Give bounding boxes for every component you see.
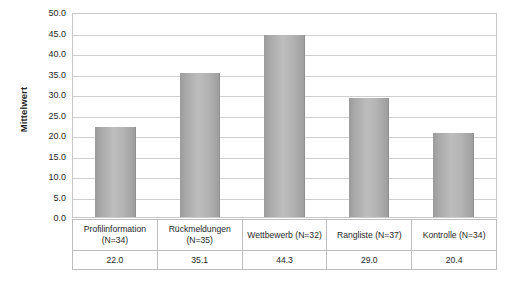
table-cell-value: 22.0 xyxy=(73,251,158,270)
table-cell-value: 44.3 xyxy=(242,251,327,270)
bar-chart-figure: Mittelwert 0.05.010.015.020.025.030.035.… xyxy=(0,0,520,287)
y-axis-tick-label: 20.0 xyxy=(48,131,66,141)
table-row-categories: Profilinformation (N=34)Rückmeldungen (N… xyxy=(73,220,497,251)
table-cell-value: 35.1 xyxy=(157,251,242,270)
plot-area xyxy=(72,13,497,218)
y-axis-tick-label: 35.0 xyxy=(48,70,66,80)
data-table: Profilinformation (N=34)Rückmeldungen (N… xyxy=(72,219,497,270)
bar[interactable] xyxy=(349,98,390,217)
bar[interactable] xyxy=(180,73,221,217)
table-cell-category: Rückmeldungen (N=35) xyxy=(157,220,242,251)
y-axis-tick-label: 0.0 xyxy=(53,213,66,223)
y-axis-tick-label: 5.0 xyxy=(53,193,66,203)
y-axis-tick-labels: 0.05.010.015.020.025.030.035.040.045.050… xyxy=(30,13,70,218)
y-axis-tick-label: 10.0 xyxy=(48,172,66,182)
bar-slot xyxy=(411,14,496,217)
bar[interactable] xyxy=(264,35,305,217)
bar[interactable] xyxy=(433,133,474,217)
y-axis-title-label: Mittelwert xyxy=(19,86,30,131)
table-row-values: 22.035.144.329.020.4 xyxy=(73,251,497,270)
table-cell-category: Profilinformation (N=34) xyxy=(73,220,158,251)
y-axis-tick-label: 50.0 xyxy=(48,8,66,18)
y-axis-tick-label: 45.0 xyxy=(48,29,66,39)
y-axis-tick-label: 30.0 xyxy=(48,90,66,100)
bars-container xyxy=(73,14,496,217)
bar-slot xyxy=(327,14,412,217)
y-axis-tick-label: 40.0 xyxy=(48,49,66,59)
table-cell-category: Wettbewerb (N=32) xyxy=(242,220,327,251)
y-axis-tick-label: 15.0 xyxy=(48,152,66,162)
table-cell-value: 20.4 xyxy=(412,251,497,270)
table-cell-category: Kontrolle (N=34) xyxy=(412,220,497,251)
bar-slot xyxy=(73,14,158,217)
table-cell-value: 29.0 xyxy=(327,251,412,270)
bar[interactable] xyxy=(95,127,136,217)
table-cell-category: Rangliste (N=37) xyxy=(327,220,412,251)
y-axis-tick-label: 25.0 xyxy=(48,111,66,121)
bar-slot xyxy=(158,14,243,217)
bar-slot xyxy=(242,14,327,217)
